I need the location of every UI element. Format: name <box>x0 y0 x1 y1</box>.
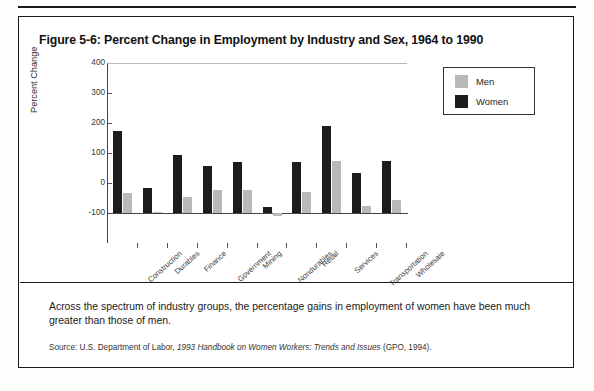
figure-title: Figure 5-6: Percent Change in Employment… <box>39 33 483 47</box>
x-tick-mark <box>346 243 347 248</box>
bar-group <box>262 63 288 213</box>
source-prefix: Source: U.S. Department of Labor, <box>49 343 177 352</box>
bar-women <box>263 207 272 213</box>
x-tick-label: Services <box>352 249 380 275</box>
bar-group <box>112 63 138 213</box>
figure-box: Figure 5-6: Percent Change in Employment… <box>18 16 574 368</box>
figure-caption: Across the spectrum of industry groups, … <box>49 300 549 328</box>
bar-men <box>362 206 371 214</box>
legend-label-men: Men <box>476 76 494 87</box>
bar-group <box>142 63 168 213</box>
x-tick-mark <box>376 243 377 248</box>
page-top-rule <box>18 6 576 8</box>
bar-men <box>243 190 252 213</box>
bar-group <box>291 63 317 213</box>
bar-group <box>381 63 407 213</box>
x-tick-mark <box>167 243 168 248</box>
x-tick-mark <box>257 243 258 248</box>
bar-group <box>321 63 347 213</box>
bar-men <box>183 197 192 214</box>
bar-men <box>392 200 401 214</box>
bar-men <box>153 212 162 214</box>
bar-men <box>123 193 132 213</box>
bar-women <box>322 126 331 213</box>
chart-area: Percent Change -1000100200300400 Constru… <box>33 57 453 282</box>
y-tick-label: 100 <box>81 148 105 157</box>
y-tick-label: 400 <box>81 58 105 67</box>
legend-swatch-women <box>455 95 468 108</box>
bar-women <box>203 166 212 213</box>
bar-women <box>113 131 122 213</box>
y-tick-label: 0 <box>81 178 105 187</box>
bar-group <box>202 63 228 213</box>
y-tick-label: 200 <box>81 118 105 127</box>
bar-men <box>332 161 341 214</box>
bar-men <box>273 213 282 216</box>
bar-group <box>351 63 377 213</box>
x-tick-mark <box>316 243 317 248</box>
bar-women <box>143 188 152 214</box>
y-tick-label: 300 <box>81 88 105 97</box>
bar-women <box>233 162 242 213</box>
source-title: 1993 Handbook on Women Workers: Trends a… <box>177 343 381 352</box>
y-axis-label: Percent Change <box>29 47 39 113</box>
legend-swatch-men <box>455 75 468 88</box>
bar-women <box>382 161 391 214</box>
figure-source: Source: U.S. Department of Labor, 1993 H… <box>49 342 549 354</box>
y-tick-label: -100 <box>81 208 105 217</box>
bar-men <box>302 192 311 213</box>
x-tick-mark <box>227 243 228 248</box>
x-tick-mark <box>286 243 287 248</box>
bar-group-container <box>108 63 407 243</box>
x-tick-label: Finance <box>202 249 228 274</box>
bar-women <box>173 155 182 213</box>
caption-divider <box>20 282 573 283</box>
x-tick-mark <box>197 243 198 248</box>
x-tick-mark <box>137 243 138 248</box>
figure-page: Figure 5-6: Percent Change in Employment… <box>0 0 594 391</box>
bar-group <box>232 63 258 213</box>
x-tick-mark <box>406 243 407 248</box>
legend-label-women: Women <box>476 96 508 107</box>
source-suffix: (GPO, 1994). <box>381 343 432 352</box>
bar-group <box>172 63 198 213</box>
chart-legend: Men Women <box>443 67 535 115</box>
bar-women <box>292 162 301 213</box>
bar-men <box>213 190 222 213</box>
bar-women <box>352 173 361 213</box>
